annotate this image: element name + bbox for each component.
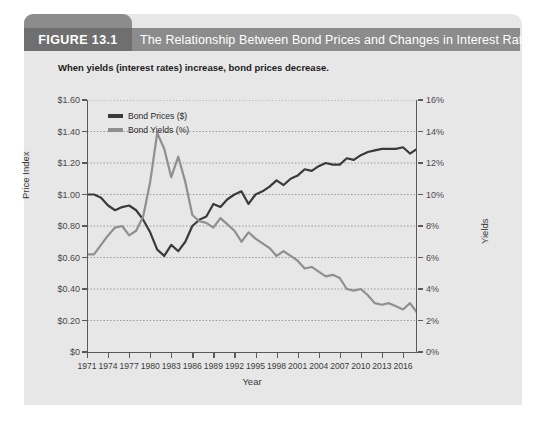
x-axis-tick-label: 1974	[99, 361, 118, 371]
chart-legend: Bond Prices ($)Bond Yields (%)	[108, 111, 189, 135]
y-axis-left-tick-label: $1.60	[57, 95, 80, 105]
y-axis-left-tick-mark	[82, 162, 87, 163]
x-axis-tick-mark	[277, 353, 278, 358]
y-axis-right-tick-label: 4%	[426, 284, 439, 294]
y-axis-left	[87, 100, 88, 353]
x-axis	[87, 352, 418, 353]
y-axis-left-tick-mark	[82, 320, 87, 321]
x-axis-tick-mark	[171, 353, 172, 358]
x-axis-tick-mark	[87, 353, 88, 358]
y-axis-right-tick-mark	[418, 320, 423, 321]
x-axis-tick-mark	[213, 353, 214, 358]
y-axis-left-tick-mark	[82, 99, 87, 100]
y-axis-right-tick-label: 16%	[426, 95, 444, 105]
y-axis-left-tick-label: $0.60	[57, 253, 80, 263]
x-axis-tick-mark	[319, 353, 320, 358]
y-axis-right-tick-label: 14%	[426, 127, 444, 137]
x-axis-tick-label: 2004	[309, 361, 328, 371]
x-axis-tick-label: 1998	[267, 361, 286, 371]
y-axis-left-tick-mark	[82, 257, 87, 258]
chart-svg	[87, 100, 417, 352]
x-axis-tick-mark	[298, 353, 299, 358]
legend-item[interactable]: Bond Yields (%)	[108, 125, 189, 135]
y-axis-left-tick-label: $1.40	[57, 127, 80, 137]
x-axis-tick-mark	[234, 353, 235, 358]
x-axis-tick-mark	[403, 353, 404, 358]
x-axis-tick-mark	[382, 353, 383, 358]
series-line	[87, 147, 417, 256]
y-axis-left-label: Price Index	[20, 151, 31, 199]
x-axis-tick-mark	[192, 353, 193, 358]
x-axis-tick-label: 1977	[120, 361, 139, 371]
y-axis-right-tick-mark	[418, 131, 423, 132]
legend-color-swatch	[108, 114, 123, 117]
legend-item[interactable]: Bond Prices ($)	[108, 111, 189, 121]
chart-container: $0$0.20$0.40$0.60$0.80$1.00$1.20$1.40$1.…	[24, 14, 522, 405]
y-axis-left-tick-label: $1.00	[57, 190, 80, 200]
y-axis-left-tick-mark	[82, 131, 87, 132]
y-axis-right-tick-label: 8%	[426, 221, 439, 231]
x-axis-label: Year	[242, 376, 261, 387]
y-axis-right-tick-label: 0%	[426, 347, 439, 357]
y-axis-left-tick-label: $0.80	[57, 221, 80, 231]
series-line	[87, 133, 417, 313]
legend-color-swatch	[108, 128, 123, 131]
x-axis-tick-label: 1980	[141, 361, 160, 371]
y-axis-right-tick-label: 10%	[426, 190, 444, 200]
y-axis-right-tick-label: 6%	[426, 253, 439, 263]
y-axis-right-tick-mark	[418, 351, 423, 352]
x-axis-tick-label: 1986	[183, 361, 202, 371]
x-axis-tick-mark	[361, 353, 362, 358]
legend-label: Bond Yields (%)	[128, 125, 189, 135]
y-axis-right-tick-mark	[418, 225, 423, 226]
y-axis-right-tick-label: 12%	[426, 158, 444, 168]
x-axis-tick-label: 2007	[330, 361, 349, 371]
x-axis-tick-mark	[150, 353, 151, 358]
x-axis-tick-label: 2010	[351, 361, 370, 371]
y-axis-left-tick-label: $0	[70, 347, 80, 357]
x-axis-tick-mark	[340, 353, 341, 358]
y-axis-left-tick-mark	[82, 194, 87, 195]
x-axis-tick-label: 1995	[246, 361, 265, 371]
y-axis-right-tick-mark	[418, 194, 423, 195]
x-axis-tick-label: 1989	[204, 361, 223, 371]
x-axis-tick-label: 1983	[162, 361, 181, 371]
y-axis-right-tick-mark	[418, 162, 423, 163]
x-axis-tick-label: 2013	[372, 361, 391, 371]
plot-area	[87, 100, 417, 352]
x-axis-tick-mark	[256, 353, 257, 358]
y-axis-left-tick-label: $0.20	[57, 316, 80, 326]
y-axis-right-tick-mark	[418, 99, 423, 100]
x-axis-tick-label: 1971	[77, 361, 96, 371]
x-axis-tick-label: 1992	[225, 361, 244, 371]
data-series	[87, 133, 417, 313]
y-axis-left-tick-label: $0.40	[57, 284, 80, 294]
y-axis-left-tick-label: $1.20	[57, 158, 80, 168]
y-axis-right-tick-label: 2%	[426, 316, 439, 326]
y-axis-left-tick-mark	[82, 225, 87, 226]
x-axis-tick-label: 2001	[288, 361, 307, 371]
y-axis-left-tick-mark	[82, 288, 87, 289]
x-axis-tick-label: 2016	[393, 361, 412, 371]
y-axis-right-label: Yields	[479, 218, 490, 244]
y-axis-right-tick-mark	[418, 257, 423, 258]
x-axis-tick-mark	[129, 353, 130, 358]
figure-card: FIGURE 13.1 The Relationship Between Bon…	[24, 14, 522, 405]
legend-label: Bond Prices ($)	[128, 111, 187, 121]
x-axis-tick-mark	[108, 353, 109, 358]
y-axis-right-tick-mark	[418, 288, 423, 289]
